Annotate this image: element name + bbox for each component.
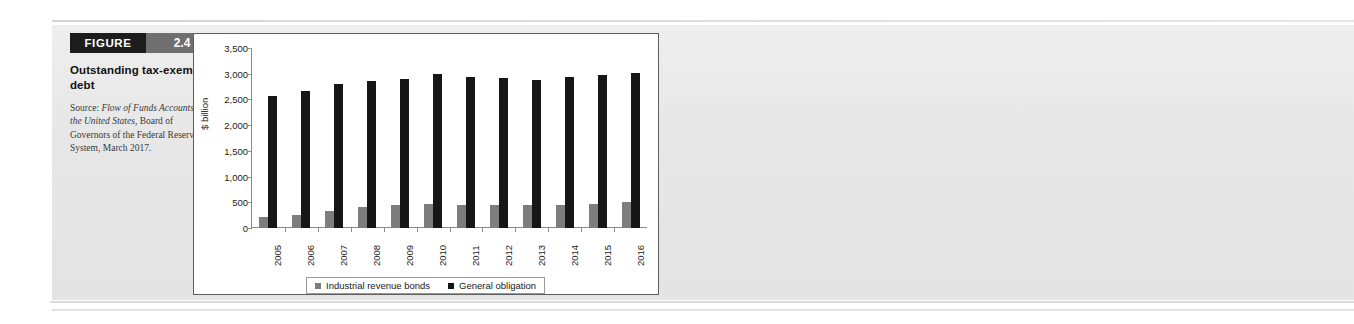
bar — [466, 77, 475, 228]
x-tick-label: 2005 — [272, 245, 283, 266]
bar — [598, 75, 607, 228]
x-tick-label: 2016 — [635, 245, 646, 266]
bar — [259, 217, 268, 228]
bar — [589, 204, 598, 228]
legend-label: Industrial revenue bonds — [326, 280, 430, 291]
x-tick-label: 2008 — [371, 245, 382, 266]
x-tick-label: 2010 — [437, 245, 448, 266]
figure-tag-label: FIGURE — [70, 33, 146, 53]
y-axis-tick-labels: 05001,0001,5002,0002,5003,0003,500 — [208, 44, 248, 242]
bar — [268, 96, 277, 228]
legend-item-industrial-revenue-bonds: Industrial revenue bonds — [315, 280, 430, 291]
scan-edge-bottom-1 — [50, 301, 1354, 303]
y-tick-label: 1,500 — [224, 145, 248, 156]
y-tick-label: 3,000 — [224, 68, 248, 79]
bar — [457, 205, 466, 228]
chart-legend: Industrial revenue bonds General obligat… — [306, 277, 545, 294]
y-tick-label: 500 — [232, 197, 248, 208]
bar-group — [252, 48, 285, 228]
x-tick-label: 2013 — [536, 245, 547, 266]
plot-wrapper: $ billion 05001,0001,5002,0002,5003,0003… — [194, 34, 660, 296]
bar-group — [548, 48, 581, 228]
x-tick-label: 2011 — [470, 246, 481, 266]
legend-label: General obligation — [459, 280, 536, 291]
bar — [301, 91, 310, 228]
bar — [532, 80, 541, 228]
bar — [292, 215, 301, 228]
bar — [490, 205, 499, 228]
bar-group — [417, 48, 450, 228]
bar-group — [581, 48, 614, 228]
bar-group — [482, 48, 515, 228]
bar-group — [450, 48, 483, 228]
bar-group — [515, 48, 548, 228]
x-tick-label: 2007 — [338, 245, 349, 266]
bar — [325, 211, 334, 228]
bar-group — [285, 48, 318, 228]
y-tick-mark — [247, 228, 252, 229]
legend-swatch-icon — [448, 283, 454, 289]
bar — [424, 204, 433, 228]
x-tick-label: 2006 — [305, 245, 316, 266]
x-tick-label: 2014 — [569, 245, 580, 266]
bar-group — [614, 48, 647, 228]
scan-edge-top — [52, 20, 1354, 22]
bar — [523, 205, 532, 228]
bar — [631, 73, 640, 228]
bar — [433, 74, 442, 228]
bar — [565, 77, 574, 228]
bar — [622, 202, 631, 228]
bar — [499, 78, 508, 228]
bar-group — [384, 48, 417, 228]
y-tick-label: 3,500 — [224, 43, 248, 54]
bar — [358, 207, 367, 228]
figure-source-note: Source: Flow of Funds Accounts of the Un… — [70, 102, 210, 156]
y-tick-label: 2,500 — [224, 94, 248, 105]
bar — [400, 79, 409, 228]
legend-swatch-icon — [315, 283, 321, 289]
bar — [556, 205, 565, 228]
x-axis-tick-labels: 2005200620072008200920102011201220132014… — [252, 234, 647, 274]
x-tick-label: 2012 — [503, 245, 514, 266]
x-tick-label: 2015 — [602, 245, 613, 266]
legend-item-general-obligation: General obligation — [448, 280, 536, 291]
scan-edge-bottom-2 — [52, 309, 1354, 311]
bar — [334, 84, 343, 228]
bar-group — [351, 48, 384, 228]
chart-container: $ billion 05001,0001,5002,0002,5003,0003… — [193, 33, 659, 295]
y-tick-label: 2,000 — [224, 120, 248, 131]
bar — [367, 81, 376, 228]
bar-group — [318, 48, 351, 228]
bar-plot-area — [252, 48, 647, 228]
source-prefix: Source: — [70, 103, 101, 113]
y-tick-label: 1,000 — [224, 171, 248, 182]
x-tick-label: 2009 — [404, 245, 415, 266]
bar — [391, 205, 400, 228]
